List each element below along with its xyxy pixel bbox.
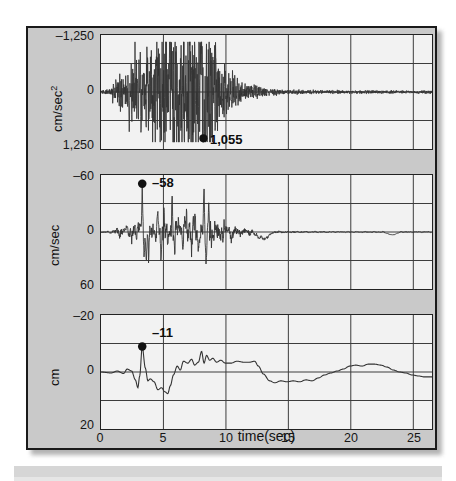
panel-displacement: –20 0 20 cm — [28, 308, 435, 438]
ytick-vel-top: –60 — [26, 170, 94, 182]
acceleration-peak-marker — [199, 134, 207, 142]
plot-area-acceleration — [100, 34, 433, 150]
displacement-waveform — [101, 347, 432, 394]
acceleration-peak-label: 1,055 — [210, 133, 243, 146]
acceleration-waveform — [101, 42, 432, 142]
velocity-peak-marker — [138, 180, 147, 188]
acceleration-trace-svg — [101, 35, 432, 149]
velocity-trace-svg — [101, 175, 432, 289]
velocity-waveform — [101, 187, 432, 264]
velocity-peak-label: –58 — [152, 176, 174, 189]
plot-area-displacement — [100, 314, 433, 430]
chart-card: –1,250 0 1,250 cm/sec2 — [26, 26, 437, 450]
x-axis-title: time(sec) — [100, 428, 433, 444]
axis-title-displacement: cm — [48, 369, 61, 386]
ytick-vel-bottom: 60 — [26, 279, 94, 291]
displacement-trace-svg — [101, 315, 432, 429]
gridlines-displacement — [101, 315, 432, 429]
ytick-disp-top: –20 — [26, 310, 94, 322]
plot-area-velocity — [100, 174, 433, 290]
panel-velocity: –60 0 60 cm/sec — [28, 168, 435, 298]
axis-title-velocity: cm/sec — [48, 225, 61, 266]
panel-acceleration: –1,250 0 1,250 cm/sec2 — [28, 28, 435, 158]
ytick-accel-bottom: 1,250 — [26, 139, 94, 151]
displacement-peak-label: –11 — [152, 326, 173, 339]
bottom-band — [14, 466, 442, 477]
ytick-accel-top: –1,250 — [26, 30, 94, 42]
displacement-peak-marker — [138, 342, 147, 350]
ytick-disp-bottom: 20 — [26, 419, 94, 431]
bottom-band-lower — [14, 477, 442, 481]
axis-title-acceleration: cm/sec2 — [48, 86, 64, 132]
seismogram-figure: –1,250 0 1,250 cm/sec2 — [0, 0, 456, 481]
